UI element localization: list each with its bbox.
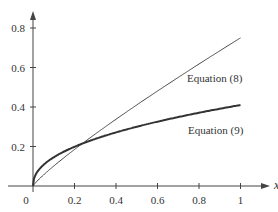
y-tick-label: 0.2 [11,141,25,153]
x-tick-label: 1 [238,194,244,206]
y-tick-label: 0.4 [11,101,25,113]
x-tick-label: 0.2 [68,194,82,206]
x-tick-label: 0 [23,194,29,206]
equation-9-line [33,105,241,186]
y-tick-label: 0.8 [11,22,25,34]
chart: 00.20.40.60.810.20.40.60.8 x Equation (8… [0,0,278,212]
y-tick-label: 0.6 [11,62,25,74]
ticks: 00.20.40.60.810.20.40.60.8 [11,22,243,206]
x-tick-label: 0.6 [151,194,165,206]
equation-8-label: Equation (8) [187,72,243,85]
curves [33,38,241,186]
x-tick-label: 0.8 [192,194,206,206]
equation-8-line [33,38,241,186]
x-axis-label: x [273,178,278,192]
equation-9-label: Equation (9) [188,124,244,137]
axes [8,11,270,192]
x-tick-label: 0.4 [109,194,123,206]
